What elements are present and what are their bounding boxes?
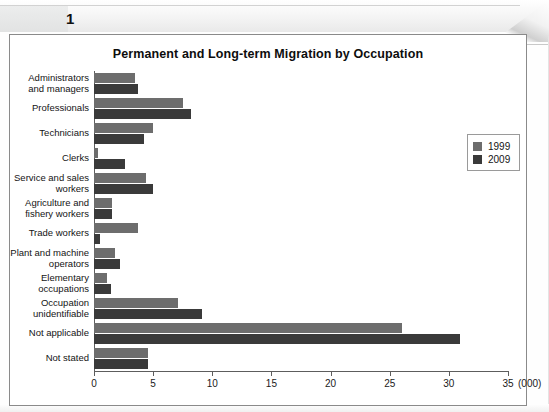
category-row: Technicians xyxy=(94,123,508,144)
chart-title: Permanent and Long-term Migration by Occ… xyxy=(10,47,526,61)
bar-2009 xyxy=(94,134,144,144)
category-row: Service and sales workers xyxy=(94,173,508,194)
bar-1999 xyxy=(94,323,402,333)
scan-hairline xyxy=(0,5,520,6)
x-tick-label: 0 xyxy=(91,378,97,389)
bar-1999 xyxy=(94,348,148,358)
x-axis-unit-label: (000) xyxy=(518,378,541,389)
category-row: Not applicable xyxy=(94,323,508,344)
x-tick-mark xyxy=(94,371,95,376)
bar-2009 xyxy=(94,159,125,169)
scan-margin-block xyxy=(0,6,68,32)
plot-area: 05101520253035 Administrators and manage… xyxy=(94,71,508,371)
category-row: Agriculture and fishery workers xyxy=(94,198,508,219)
x-tick-mark xyxy=(212,371,213,376)
x-tick-label: 30 xyxy=(443,378,454,389)
bar-2009 xyxy=(94,259,120,269)
bar-2009 xyxy=(94,309,202,319)
x-tick-label: 5 xyxy=(150,378,156,389)
bar-2009 xyxy=(94,184,153,194)
bar-2009 xyxy=(94,84,138,94)
category-row: Occupation unidentifiable xyxy=(94,298,508,319)
x-tick-mark xyxy=(331,371,332,376)
category-row: Trade workers xyxy=(94,223,508,244)
bar-2009 xyxy=(94,334,460,344)
bar-2009 xyxy=(94,359,148,369)
figure-frame: Permanent and Long-term Migration by Occ… xyxy=(9,34,527,406)
x-tick-label: 15 xyxy=(266,378,277,389)
category-row: Administrators and managers xyxy=(94,73,508,94)
category-label: Clerks xyxy=(0,153,89,164)
bar-1999 xyxy=(94,73,135,83)
bar-1999 xyxy=(94,248,115,258)
category-label: Agriculture and fishery workers xyxy=(0,198,89,219)
x-tick-mark xyxy=(271,371,272,376)
page-number: 1 xyxy=(66,10,74,27)
category-row: Clerks xyxy=(94,148,508,169)
x-tick-mark xyxy=(153,371,154,376)
bar-1999 xyxy=(94,148,98,158)
category-label: Technicians xyxy=(0,128,89,139)
x-tick-label: 20 xyxy=(325,378,336,389)
bar-2009 xyxy=(94,109,191,119)
chart-legend: 19992009 xyxy=(467,134,520,171)
category-label: Service and sales workers xyxy=(0,173,89,194)
x-tick-label: 10 xyxy=(207,378,218,389)
bar-1999 xyxy=(94,123,153,133)
category-label: Not applicable xyxy=(0,328,89,339)
category-label: Plant and machine operators xyxy=(0,248,89,269)
category-row: Professionals xyxy=(94,98,508,119)
bar-2009 xyxy=(94,284,111,294)
bar-1999 xyxy=(94,273,107,283)
category-row: Not stated xyxy=(94,348,508,369)
bar-1999 xyxy=(94,223,138,233)
category-row: Plant and machine operators xyxy=(94,248,508,269)
category-label: Professionals xyxy=(0,103,89,114)
legend-swatch xyxy=(473,142,482,151)
legend-label: 2009 xyxy=(488,154,510,165)
bar-2009 xyxy=(94,234,100,244)
x-axis-line xyxy=(94,371,508,372)
x-tick-mark xyxy=(508,371,509,376)
bar-2009 xyxy=(94,209,112,219)
x-tick-mark xyxy=(449,371,450,376)
x-tick-label: 35 xyxy=(502,378,513,389)
category-label: Administrators and managers xyxy=(0,73,89,94)
bar-1999 xyxy=(94,173,146,183)
legend-item: 1999 xyxy=(473,140,510,152)
category-label: Occupation unidentifiable xyxy=(0,298,89,319)
x-tick-label: 25 xyxy=(384,378,395,389)
legend-swatch xyxy=(473,155,482,164)
bar-1999 xyxy=(94,298,178,308)
legend-item: 2009 xyxy=(473,153,510,165)
category-label: Trade workers xyxy=(0,228,89,239)
legend-label: 1999 xyxy=(488,141,510,152)
category-label: Not stated xyxy=(0,353,89,364)
bar-1999 xyxy=(94,98,183,108)
x-tick-mark xyxy=(390,371,391,376)
bar-1999 xyxy=(94,198,112,208)
category-label: Elementary occupations xyxy=(0,273,89,294)
category-row: Elementary occupations xyxy=(94,273,508,294)
